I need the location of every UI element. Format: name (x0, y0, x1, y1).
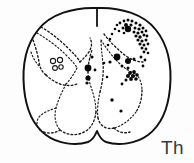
open-cell-marker (57, 57, 62, 62)
labelled-cell-dot (136, 38, 139, 41)
labelled-cell-dot (118, 30, 121, 33)
labelled-cell-dot (138, 23, 141, 26)
labelled-cell-dot (142, 65, 145, 68)
labelled-cell-dot (140, 39, 143, 42)
labelled-cell-dot (142, 27, 145, 30)
labelled-cell-dot (135, 73, 139, 77)
section-level-label: Th (161, 138, 184, 157)
labelled-cell-dot (114, 28, 117, 31)
labelled-cell-dot (129, 23, 132, 26)
labelled-cell-dot (127, 19, 130, 22)
labelled-cell-dot (90, 55, 93, 58)
labelled-cell-dot (143, 51, 146, 54)
outer-contour-group (24, 8, 171, 144)
labelled-cell-dot (141, 47, 144, 50)
labelled-cell-dot (125, 26, 131, 32)
labelled-cell-dot (140, 56, 143, 59)
labelled-cell-dot (114, 54, 121, 61)
figure-container: Th (0, 0, 194, 163)
labelled-cell-dot (127, 67, 130, 70)
labelled-cell-dot (147, 43, 150, 46)
labelled-cell-dot (94, 69, 97, 72)
labelled-cell-dot (110, 98, 113, 101)
labelled-cell-dot (123, 20, 126, 23)
labelled-cell-dot (121, 65, 124, 68)
labelled-cell-dot (125, 58, 131, 64)
labelled-cell-dot (106, 76, 109, 79)
labelled-cell-dot (103, 62, 106, 65)
labelled-cell-dot (119, 109, 122, 112)
labelled-cell-dot (85, 65, 92, 72)
labelled-cell-dot (126, 74, 130, 78)
labelled-cell-dot (134, 34, 137, 37)
labelled-cell-dot (144, 59, 147, 62)
labelled-cell-dot (133, 31, 136, 34)
labelled-cell-dot (146, 35, 149, 38)
labelled-cell-dot (85, 81, 88, 84)
labelled-cell-dot (147, 52, 150, 55)
labelled-cell-dot (122, 27, 125, 30)
labelled-cell-dot (85, 75, 90, 80)
labelled-cell-dot (135, 22, 138, 25)
labelled-cell-dot (134, 77, 138, 81)
labelled-cell-dot (125, 79, 128, 82)
outer-contour-path (24, 8, 171, 144)
labelled-cell-dot (121, 83, 124, 86)
labelled-cell-dot (138, 42, 141, 45)
labelled-cell-dot (145, 48, 148, 51)
labelled-cell-dot (145, 39, 148, 42)
labelled-cell-dot (123, 32, 126, 35)
labelled-cell-dot (107, 44, 110, 47)
labelled-cell-dot (109, 38, 112, 41)
labelled-cell-dot (108, 60, 111, 63)
labelled-cell-dot (131, 20, 134, 23)
open-cell-marker (53, 66, 58, 71)
labelled-cell-dot (116, 24, 119, 27)
labelled-cell-dot (143, 34, 146, 37)
labelled-cell-dot (133, 58, 136, 61)
labelled-cell-dot (129, 77, 133, 81)
labelled-cell-dot (136, 31, 139, 34)
labelled-cell-dot (145, 30, 148, 33)
labelled-cell-dot (119, 22, 122, 25)
labelled-cell-dot (138, 35, 141, 38)
labelled-cell-dot (141, 31, 144, 34)
labelled-cell-dot (137, 27, 140, 30)
labelled-cell-dot (132, 70, 136, 74)
open-cell-marker (50, 58, 55, 63)
labelled-cell-dot (143, 44, 146, 47)
labelled-cell-dot (111, 33, 114, 36)
open-cell-marker (59, 65, 63, 69)
labelled-cell-dot (134, 27, 137, 30)
